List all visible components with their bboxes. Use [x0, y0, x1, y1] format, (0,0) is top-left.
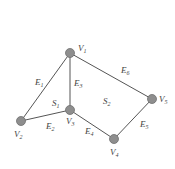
label-s2: S2 — [103, 96, 111, 107]
label-s1: S1 — [52, 98, 60, 109]
label-e5: E5 — [139, 119, 149, 130]
label-e2: E2 — [45, 121, 55, 132]
label-e4: E4 — [84, 126, 94, 137]
edge-e5 — [114, 99, 152, 139]
edge-e6 — [70, 53, 152, 99]
edge-e1 — [21, 53, 70, 121]
label-v2: V2 — [14, 129, 23, 140]
graph-diagram: V1 V2 V3 V4 V5 E1 E2 E3 E4 E5 E6 S1 S2 — [0, 0, 175, 169]
node-v4 — [110, 135, 119, 144]
label-e1: E1 — [34, 77, 44, 88]
label-e6: E6 — [120, 65, 130, 76]
label-e3: E3 — [73, 78, 83, 89]
label-v3: V3 — [66, 116, 75, 127]
label-v5: V5 — [159, 94, 168, 105]
label-v4: V4 — [110, 147, 119, 158]
node-v5 — [148, 95, 157, 104]
label-v1: V1 — [78, 43, 87, 54]
node-v1 — [66, 49, 75, 58]
node-v3 — [66, 106, 75, 115]
node-v2 — [17, 117, 26, 126]
